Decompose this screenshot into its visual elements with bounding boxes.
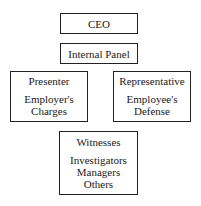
presenter-line-2: Charges <box>11 105 87 117</box>
representative-line-2: Defense <box>114 105 190 117</box>
presenter-title: Presenter <box>11 75 87 87</box>
witnesses-title: Witnesses <box>60 136 137 148</box>
witnesses-line-1: Investigators <box>60 154 137 166</box>
witnesses-box: Witnesses Investigators Managers Others <box>59 131 138 195</box>
witnesses-line-2: Managers <box>60 166 137 178</box>
ceo-label: CEO <box>61 18 137 30</box>
ceo-box: CEO <box>60 13 138 34</box>
internal-panel-box: Internal Panel <box>60 43 138 64</box>
representative-title: Representative <box>114 75 190 87</box>
presenter-box: Presenter Employer's Charges <box>10 71 88 122</box>
representative-line-1: Employee's <box>114 93 190 105</box>
witnesses-line-3: Others <box>60 178 137 190</box>
presenter-line-1: Employer's <box>11 93 87 105</box>
internal-panel-label: Internal Panel <box>61 48 137 60</box>
representative-box: Representative Employee's Defense <box>113 71 191 122</box>
